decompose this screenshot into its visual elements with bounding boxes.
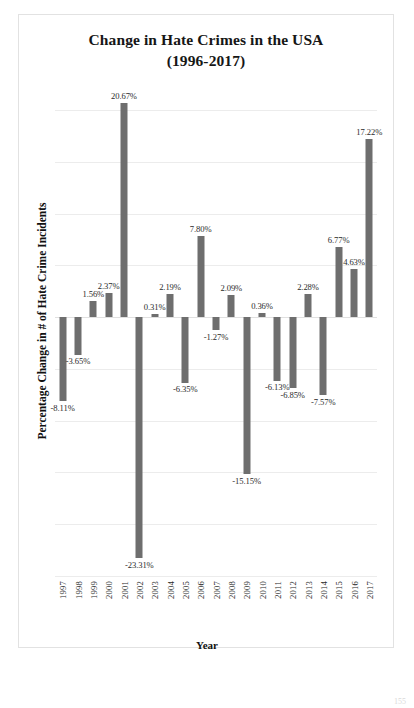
bar[interactable] — [136, 317, 143, 558]
bar-group[interactable]: 4.63% — [346, 110, 361, 576]
x-axis-tick-2003: 2003 — [150, 581, 160, 599]
x-axis-tick-1998: 1998 — [74, 581, 84, 599]
x-axis-tick-2008: 2008 — [227, 581, 237, 599]
x-axis-tick-2017: 2017 — [365, 581, 375, 599]
x-axis-tick-2009: 2009 — [242, 581, 252, 599]
bar-group[interactable]: -6.13% — [270, 110, 285, 576]
bar[interactable] — [197, 236, 204, 317]
x-axis-title: Year — [19, 639, 395, 651]
bar-value-label: 17.22% — [356, 127, 382, 137]
y-axis-title: Percentage Change in # of Hate Crime Inc… — [36, 106, 48, 536]
x-axis-tick-2002: 2002 — [135, 581, 145, 599]
bar-series: -8.11%-3.65%1.56%2.37%20.67%-23.31%0.31%… — [55, 110, 377, 576]
bar[interactable] — [366, 139, 373, 317]
bar[interactable] — [243, 317, 250, 474]
bar[interactable] — [350, 269, 357, 317]
x-axis-tick-2013: 2013 — [304, 581, 314, 599]
x-axis-tick-1999: 1999 — [89, 581, 99, 599]
bar-group[interactable]: 2.19% — [162, 110, 177, 576]
bar-group[interactable]: -7.57% — [316, 110, 331, 576]
x-axis-tick-2010: 2010 — [258, 581, 268, 599]
bar[interactable] — [166, 294, 173, 317]
x-axis-tick-2012: 2012 — [288, 581, 298, 599]
x-axis-tick-2006: 2006 — [196, 581, 206, 599]
bar[interactable] — [182, 317, 189, 383]
bar[interactable] — [212, 317, 219, 330]
bar-group[interactable]: 2.28% — [300, 110, 315, 576]
bar-group[interactable]: 0.36% — [254, 110, 269, 576]
chart-title-line-2: (1996-2017) — [19, 50, 393, 71]
x-axis-tick-2001: 2001 — [120, 581, 130, 599]
bar-group[interactable]: -6.35% — [178, 110, 193, 576]
bar-group[interactable]: -3.65% — [70, 110, 85, 576]
bar-group[interactable]: -23.31% — [132, 110, 147, 576]
bar[interactable] — [274, 317, 281, 380]
x-axis-tick-2015: 2015 — [334, 581, 344, 599]
bar-group[interactable]: -8.11% — [55, 110, 70, 576]
x-axis-tick-2000: 2000 — [104, 581, 114, 599]
bar-group[interactable]: 2.37% — [101, 110, 116, 576]
bar[interactable] — [151, 314, 158, 317]
x-axis-tick-2011: 2011 — [273, 581, 283, 599]
bar[interactable] — [258, 313, 265, 317]
bar[interactable] — [304, 294, 311, 318]
x-axis-tick-2005: 2005 — [181, 581, 191, 599]
bar[interactable] — [228, 295, 235, 317]
x-axis-tick-2004: 2004 — [166, 581, 176, 599]
chart-title-line-1: Change in Hate Crimes in the USA — [89, 31, 324, 48]
bar-value-label: 20.67% — [111, 91, 137, 101]
bar[interactable] — [320, 317, 327, 395]
x-axis-tick-2014: 2014 — [319, 581, 329, 599]
bar[interactable] — [105, 293, 112, 318]
x-axis-tick-2007: 2007 — [212, 581, 222, 599]
page-number: 155 — [394, 697, 406, 706]
bar[interactable] — [335, 247, 342, 317]
bar-group[interactable]: 20.67% — [116, 110, 131, 576]
chart-title: Change in Hate Crimes in the USA (1996-2… — [19, 29, 393, 72]
chart-figure: Change in Hate Crimes in the USA (1996-2… — [18, 14, 394, 648]
bar-group[interactable]: 1.56% — [86, 110, 101, 576]
bar-group[interactable]: 6.77% — [331, 110, 346, 576]
bar[interactable] — [120, 103, 127, 317]
plot-area: -8.11%-3.65%1.56%2.37%20.67%-23.31%0.31%… — [55, 110, 377, 576]
bar-group[interactable]: 2.09% — [224, 110, 239, 576]
bar[interactable] — [90, 301, 97, 317]
x-axis-tick-1997: 1997 — [58, 581, 68, 599]
bar-group[interactable]: -15.15% — [239, 110, 254, 576]
x-axis-tick-2016: 2016 — [350, 581, 360, 599]
bar-group[interactable]: 7.80% — [193, 110, 208, 576]
gridline — [55, 576, 377, 577]
bar[interactable] — [289, 317, 296, 388]
bar-group[interactable]: -6.85% — [285, 110, 300, 576]
bar-group[interactable]: -1.27% — [208, 110, 223, 576]
bar-group[interactable]: 17.22% — [362, 110, 377, 576]
bar-group[interactable]: 0.31% — [147, 110, 162, 576]
x-axis-tick-labels: 1997199819992000200120022003200420052006… — [55, 581, 377, 637]
bar[interactable] — [74, 317, 81, 355]
